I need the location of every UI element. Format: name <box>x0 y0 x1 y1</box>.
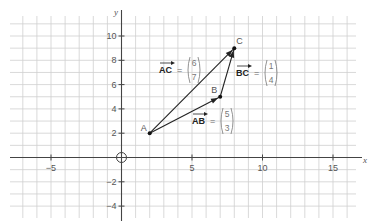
vector-label-ac: AC=67 <box>159 57 200 83</box>
point-a <box>148 131 152 135</box>
vector-ab-line <box>150 97 221 133</box>
y-tick-label: 6 <box>111 80 116 90</box>
point-c <box>232 46 236 50</box>
equals-sign: = <box>177 65 182 75</box>
component-x: 1 <box>269 61 274 71</box>
vector-name: AC <box>159 65 172 75</box>
overhead-arrowhead-icon <box>248 64 252 68</box>
left-paren <box>265 60 267 86</box>
axes: xy <box>10 7 367 221</box>
vector-diagram: xy −551015108642−2−4 ABC AB=53BC=14AC=67 <box>0 0 374 223</box>
vector-name: BC <box>236 68 249 78</box>
left-paren <box>188 57 190 83</box>
equals-sign: = <box>254 68 259 78</box>
vector-label-bc: BC=14 <box>236 60 277 86</box>
point-b <box>218 95 222 99</box>
y-tick-label: 8 <box>111 55 116 65</box>
component-y: 3 <box>225 123 230 133</box>
y-tick-label: −4 <box>106 201 116 211</box>
y-tick-label: −2 <box>106 177 116 187</box>
y-axis-label: y <box>113 7 118 17</box>
x-tick-label: 5 <box>189 163 194 173</box>
overhead-arrowhead-icon <box>171 61 175 65</box>
coordinate-grid: xy −551015108642−2−4 ABC AB=53BC=14AC=67 <box>0 0 374 223</box>
x-tick-label: 10 <box>257 163 267 173</box>
point-label-b: B <box>211 85 217 95</box>
y-tick-label: 4 <box>111 104 116 114</box>
y-tick-label: 2 <box>111 128 116 138</box>
grid-lines <box>10 16 356 218</box>
component-y: 4 <box>269 75 274 85</box>
y-tick-label: 10 <box>106 31 116 41</box>
x-axis-label: x <box>362 155 367 165</box>
vector-name: AB <box>192 116 205 126</box>
point-label-a: A <box>141 123 147 133</box>
vector-ab-arrowhead <box>211 98 218 104</box>
x-tick-label: 15 <box>328 163 338 173</box>
component-x: 5 <box>225 109 230 119</box>
component-y: 7 <box>192 72 197 82</box>
x-tick-label: −5 <box>46 163 56 173</box>
right-paren <box>198 57 200 83</box>
point-label-c: C <box>236 36 243 46</box>
component-x: 6 <box>192 58 197 68</box>
vector-labels: AB=53BC=14AC=67 <box>159 57 277 134</box>
equals-sign: = <box>210 116 215 126</box>
